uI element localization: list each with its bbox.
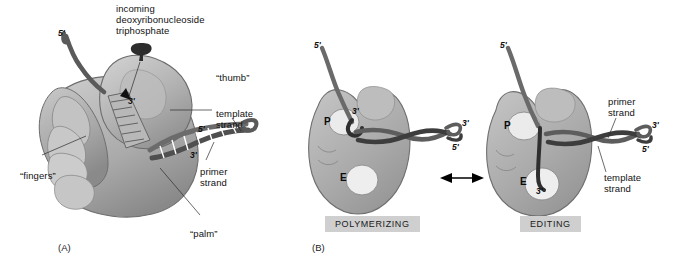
template-strand-leader-b <box>598 146 606 172</box>
polymerizing-site-letter-left: P <box>324 116 331 127</box>
primer-3prime-label-b-left: 3' <box>352 106 359 116</box>
panel-b-tag: (B) <box>312 242 325 253</box>
duplex-3prime-label-b-right: 3' <box>652 120 659 130</box>
polymerizing-site-letter-right: P <box>504 120 511 131</box>
duplex-3prime-label-b-left: 3' <box>462 118 469 128</box>
polymerizing-state-label: POLYMERIZING <box>325 216 420 232</box>
duplex-5prime-label-b-right: 5' <box>642 144 649 154</box>
primer-strand-label-b: primer strand <box>608 96 636 118</box>
figure-root: incoming deoxyribonucleoside triphosphat… <box>0 0 684 269</box>
editing-site-cavity-left <box>346 165 378 195</box>
primer-3prime-label-b-right: 3' <box>536 186 543 196</box>
transition-arrow <box>440 173 484 183</box>
template-5prime-label-b-right: 5' <box>500 40 507 50</box>
editing-site-letter-right: E <box>520 176 527 187</box>
editing-state-label: EDITING <box>520 216 581 232</box>
duplex-5prime-label-b-left: 5' <box>452 142 459 152</box>
editing-site-letter-left: E <box>340 172 347 183</box>
template-5prime-label-b-left: 5' <box>314 40 321 50</box>
template-strand-label-b: template strand <box>604 172 641 194</box>
